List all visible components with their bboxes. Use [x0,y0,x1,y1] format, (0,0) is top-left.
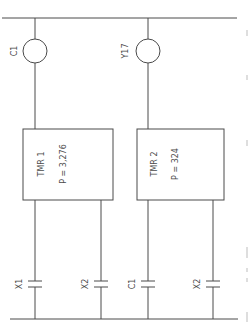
timer-preset: P = 324 [171,148,180,180]
timer-name: TMR 1 [37,152,46,178]
coil-label: C1 [10,46,19,57]
coil-c1: C1 [10,39,47,63]
contact-label: X1 [15,279,24,290]
coil-icon [136,39,160,63]
timer-name: TMR 2 [150,152,159,178]
ladder-diagram: C1 Y17 TMR 1 P = 3,276 TMR 2 P = 324 X1 … [0,0,249,334]
timer-block-tmr2: TMR 2 P = 324 [137,129,224,200]
contact-x1: X1 [15,279,42,290]
coil-icon [23,39,47,63]
coil-label: Y17 [121,43,130,59]
timer-preset: P = 3,276 [59,144,68,184]
contact-label: X2 [81,279,90,290]
contact-label: X2 [193,279,202,290]
contact-x2-rung1: X2 [81,279,108,290]
coil-y17: Y17 [121,39,160,63]
contact-c1: C1 [128,279,155,290]
contact-label: C1 [128,279,137,290]
contact-x2-rung2: X2 [193,279,220,290]
timer-block-tmr1: TMR 1 P = 3,276 [23,129,113,200]
